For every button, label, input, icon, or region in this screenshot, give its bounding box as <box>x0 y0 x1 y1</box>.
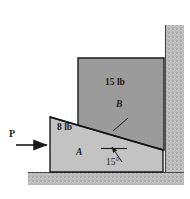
ground-support <box>28 172 184 185</box>
weight-label-b: 15 lb <box>105 77 125 87</box>
wall-support <box>165 25 184 172</box>
weight-label-a: 8 lb <box>57 122 72 132</box>
figure-canvas <box>0 0 190 199</box>
body-label-b: B <box>116 99 122 109</box>
force-label-p: P <box>9 128 15 139</box>
mechanics-figure: P 8 lb A 15 lb B 15° <box>0 0 190 199</box>
angle-label-15deg: 15° <box>106 157 119 167</box>
body-label-a: A <box>76 147 82 157</box>
